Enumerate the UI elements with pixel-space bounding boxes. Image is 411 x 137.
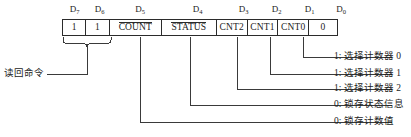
annotation-select-counter-0-label: 1: 选择计数器 0 bbox=[334, 51, 401, 61]
annotation-readback-command-label: 读回命令 bbox=[4, 68, 44, 78]
annotation-select-counter-0: 1: 选择计数器 0 bbox=[334, 52, 401, 62]
readback-command-diagram: D7 D6 D5 D4 D3 D2 D1 D0 1 1 COUNT STATUS… bbox=[0, 0, 411, 137]
annotation-select-counter-1: 1: 选择计数器 1 bbox=[334, 69, 401, 79]
leader-cnt2 bbox=[237, 37, 392, 90]
brace-readback bbox=[63, 37, 111, 48]
annotation-latch-count: 0: 锁存计数值 bbox=[334, 117, 394, 127]
annotation-select-counter-2-label: 1: 选择计数器 2 bbox=[334, 83, 401, 93]
annotation-latch-status-label: 0: 锁存状态信息 bbox=[334, 99, 404, 109]
annotation-select-counter-1-label: 1: 选择计数器 1 bbox=[334, 68, 401, 78]
annotation-latch-count-label: 0: 锁存计数值 bbox=[334, 116, 394, 126]
annotation-latch-status: 0: 锁存状态信息 bbox=[334, 100, 404, 110]
annotation-readback-command: 读回命令 bbox=[4, 69, 44, 79]
annotation-select-counter-2: 1: 选择计数器 2 bbox=[334, 84, 401, 94]
